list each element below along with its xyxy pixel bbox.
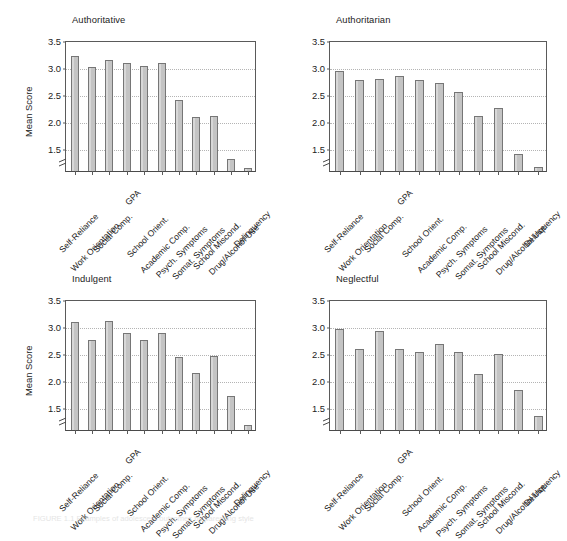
bar-highlight <box>89 341 91 430</box>
bar <box>335 329 344 430</box>
bar-highlight <box>141 341 143 430</box>
bar-highlight <box>455 353 457 430</box>
x-tick-mark <box>92 430 93 434</box>
bar-highlight <box>106 322 108 430</box>
bar <box>123 63 131 171</box>
bar <box>175 357 183 430</box>
bar-highlight <box>376 332 378 430</box>
bar <box>210 356 218 430</box>
bar <box>494 108 503 171</box>
y-tick-mark <box>63 355 66 356</box>
x-tick-mark <box>498 171 499 175</box>
x-tick-mark <box>399 171 400 175</box>
bar <box>88 67 96 171</box>
x-tick-mark <box>75 430 76 434</box>
bar-highlight <box>159 334 161 430</box>
y-tick-mark <box>63 409 66 410</box>
bar <box>158 333 166 430</box>
y-tick-mark <box>327 409 330 410</box>
x-tick-mark <box>538 171 539 175</box>
x-tick-mark <box>439 430 440 434</box>
bar-highlight <box>475 375 477 430</box>
x-tick-mark <box>248 171 249 175</box>
bar-highlight <box>515 155 517 171</box>
y-tick-label: 3.0 <box>312 323 325 332</box>
bar <box>494 354 503 430</box>
bar-highlight <box>396 77 398 171</box>
bar-highlight <box>495 109 497 171</box>
y-tick-label: 2.0 <box>48 118 61 127</box>
x-tick-mark <box>340 171 341 175</box>
bar <box>105 321 113 430</box>
bar-highlight <box>176 101 178 171</box>
y-tick-label: 2.0 <box>312 118 325 127</box>
bar <box>227 396 235 430</box>
x-tick-mark <box>419 171 420 175</box>
x-tick-mark <box>231 430 232 434</box>
x-tick-label-text: GPA <box>124 188 142 206</box>
x-tick-mark <box>399 430 400 434</box>
bar-highlight <box>159 64 161 171</box>
bar <box>192 117 200 171</box>
panel-title: Neglectful <box>336 273 379 284</box>
bar <box>140 66 148 171</box>
y-tick-mark <box>63 69 66 70</box>
x-tick-mark <box>459 171 460 175</box>
x-tick-mark <box>498 430 499 434</box>
y-tick-mark <box>63 301 66 302</box>
x-tick-mark <box>340 430 341 434</box>
x-tick-mark <box>214 171 215 175</box>
bar-highlight <box>356 350 358 430</box>
y-tick-mark <box>63 150 66 151</box>
x-tick-mark <box>144 171 145 175</box>
bar <box>192 373 200 430</box>
x-tick-label: GPA <box>396 447 414 465</box>
bar-highlight <box>211 117 213 171</box>
y-tick-label: 3.0 <box>48 323 61 332</box>
bar-highlight <box>436 84 438 171</box>
axis-break-icon <box>322 156 331 168</box>
x-tick-mark <box>214 430 215 434</box>
y-tick-mark <box>327 355 330 356</box>
x-tick-mark <box>179 171 180 175</box>
bar-highlight <box>436 345 438 430</box>
x-tick-label-text: Delinquency <box>522 468 562 508</box>
bar-highlight <box>495 355 497 430</box>
y-tick-label: 1.5 <box>312 405 325 414</box>
x-tick-mark <box>479 430 480 434</box>
x-tick-mark <box>109 171 110 175</box>
x-tick-mark <box>439 171 440 175</box>
x-tick-mark <box>75 171 76 175</box>
bar-highlight <box>455 93 457 171</box>
y-tick-label: 2.5 <box>312 91 325 100</box>
y-tick-mark <box>63 123 66 124</box>
x-tick-mark <box>231 171 232 175</box>
bar-highlight <box>245 169 247 171</box>
bar-highlight <box>228 397 230 430</box>
x-tick-mark <box>360 171 361 175</box>
bar-highlight <box>535 417 537 430</box>
bar <box>415 352 424 430</box>
panel-title: Authoritative <box>72 14 125 25</box>
y-tick-mark <box>63 382 66 383</box>
y-tick-label: 3.5 <box>312 37 325 46</box>
bar-highlight <box>193 374 195 430</box>
y-tick-mark <box>327 42 330 43</box>
bar-highlight <box>124 64 126 171</box>
plot-area: 1.52.02.53.03.5Self-RelianceWork Orienta… <box>329 41 547 172</box>
y-tick-label: 1.5 <box>312 146 325 155</box>
y-tick-label: 1.5 <box>48 405 61 414</box>
bar <box>175 100 183 171</box>
bar <box>140 340 148 430</box>
y-tick-mark <box>63 42 66 43</box>
bar <box>355 80 364 171</box>
bar-highlight <box>245 426 247 430</box>
x-tick-mark <box>479 171 480 175</box>
bar <box>395 76 404 171</box>
bar-highlight <box>336 330 338 430</box>
bar-highlight <box>176 358 178 430</box>
gridline <box>66 328 255 329</box>
bar-highlight <box>416 353 418 430</box>
bar <box>355 349 364 430</box>
